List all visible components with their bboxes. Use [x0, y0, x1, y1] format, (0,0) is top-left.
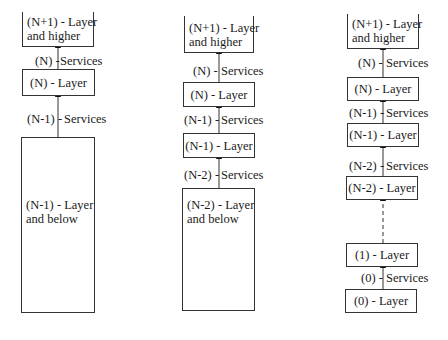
- col3-layer-n-box: (N) - Layer: [347, 77, 419, 101]
- col1-n-services-label: Services: [60, 54, 102, 68]
- col3-n-services-label: Services: [386, 56, 428, 70]
- box-label-line2: and higher: [189, 35, 259, 49]
- col3-layer-n-plus-1-box: (N+1) - Layer and higher: [347, 14, 419, 49]
- box-label-line1: (N+1) - Layer: [352, 17, 422, 31]
- box-label: (N-2) - Layer: [347, 181, 417, 195]
- col3-layer-n-minus-2-box: (N-2) - Layer: [346, 176, 418, 200]
- col3-0-services-label: Services: [386, 271, 428, 285]
- box-label: (N) - Layer: [23, 76, 94, 90]
- box-label-line2: and below: [187, 212, 254, 226]
- col1-n-1-services-prefix: (N-1) -: [27, 112, 62, 126]
- box-label: (N-1) - Layer: [348, 128, 418, 142]
- col2-layer-n-minus-2-and-below-box: (N-2) - Layer and below: [182, 188, 255, 311]
- col2-n-2-services-prefix: (N-2) -: [184, 168, 219, 182]
- col3-n-2-services-label: Services: [386, 159, 428, 173]
- col1-layer-n-minus-1-and-below-box: (N-1) - Layer and below: [21, 137, 95, 313]
- box-label-line1: (N-1) - Layer: [26, 198, 93, 212]
- col3-layer-1-box: (1) - Layer: [346, 243, 418, 267]
- col2-n-services-prefix: (N) -: [193, 64, 218, 78]
- box-label: (N) - Layer: [348, 82, 418, 96]
- box-label-line1: (N-2) - Layer: [187, 198, 254, 212]
- box-label-line1: (N+1) - Layer: [189, 21, 259, 35]
- box-label: (N) - Layer: [184, 88, 254, 102]
- col2-layer-n-minus-1-box: (N-1) - Layer: [183, 133, 255, 158]
- box-label: (N-1) - Layer: [184, 139, 254, 153]
- box-label: (0) - Layer: [346, 294, 416, 308]
- col3-layer-n-minus-1-box: (N-1) - Layer: [347, 123, 419, 147]
- col1-n-1-services-label: Services: [64, 112, 106, 126]
- col2-n-1-services-label: Services: [221, 113, 263, 127]
- box-label-line2: and higher: [27, 29, 97, 43]
- col2-layer-n-box: (N) - Layer: [183, 82, 255, 107]
- col3-n-services-prefix: (N) -: [358, 56, 383, 70]
- col3-0-services-prefix: (0) -: [361, 271, 383, 285]
- box-label-line2: and higher: [352, 31, 422, 45]
- box-label-line1: (N+1) - Layer: [27, 15, 97, 29]
- box-label-line2: and below: [26, 212, 93, 226]
- col3-layer-0-box: (0) - Layer: [345, 289, 417, 313]
- col1-layer-n-plus-1-box: (N+1) - Layer and higher: [22, 12, 94, 47]
- col2-n-services-label: Services: [221, 64, 263, 78]
- col1-n-services-prefix: (N) -: [35, 54, 60, 68]
- col3-n-2-services-prefix: (N-2) -: [349, 159, 384, 173]
- col3-n-1-services-prefix: (N-1) -: [349, 106, 384, 120]
- col2-layer-n-plus-1-box: (N+1) - Layer and higher: [184, 16, 254, 53]
- col2-n-1-services-prefix: (N-1) -: [184, 113, 219, 127]
- col2-n-2-services-label: Services: [221, 168, 263, 182]
- col3-n-1-services-label: Services: [386, 106, 428, 120]
- col1-layer-n-box: (N) - Layer: [22, 69, 95, 96]
- box-label: (1) - Layer: [347, 248, 417, 262]
